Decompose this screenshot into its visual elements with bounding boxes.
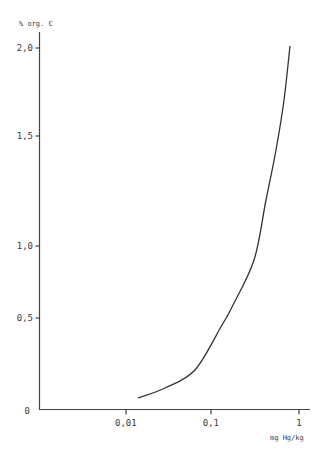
x-tick-label: 0,01	[115, 418, 137, 428]
plot-svg	[0, 0, 329, 455]
y-tick-label: 1,0	[17, 241, 33, 251]
y-tick-label: 0	[25, 406, 30, 416]
x-tick-label: 1	[296, 418, 301, 428]
data-curve	[138, 46, 290, 398]
x-tick-label: 0,1	[203, 418, 219, 428]
x-ticks	[126, 410, 299, 415]
y-tick-label: 2,0	[17, 43, 33, 53]
y-tick-label: 1,5	[17, 131, 33, 141]
y-axis-title: % org. C	[19, 19, 53, 29]
y-tick-label: 0,5	[17, 313, 33, 323]
chart-container: % org. C mg Hg/kg 00,51,01,52,00,010,11	[0, 0, 329, 455]
x-axis-unit-label: mg Hg/kg	[270, 433, 304, 443]
